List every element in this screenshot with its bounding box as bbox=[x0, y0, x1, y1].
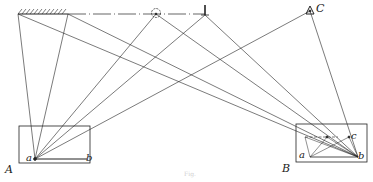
label-B-b: b bbox=[358, 151, 364, 161]
surveying-diagram: A a b B a b c C Fig. bbox=[0, 0, 373, 182]
label-B-a: a bbox=[299, 150, 305, 160]
label-A-b: b bbox=[86, 153, 92, 163]
hatched-wall bbox=[18, 9, 68, 14]
label-A-a: a bbox=[26, 153, 32, 163]
post-marker bbox=[201, 5, 209, 15]
label-station-A: A bbox=[5, 164, 13, 175]
label-station-B: B bbox=[282, 163, 290, 174]
label-B-c: c bbox=[351, 131, 357, 141]
rays-from-A bbox=[18, 11, 310, 159]
rays-from-B bbox=[18, 11, 358, 157]
diagram-canvas bbox=[0, 0, 373, 182]
label-point-C: C bbox=[316, 3, 324, 14]
figure-caption: Fig. bbox=[150, 170, 230, 177]
